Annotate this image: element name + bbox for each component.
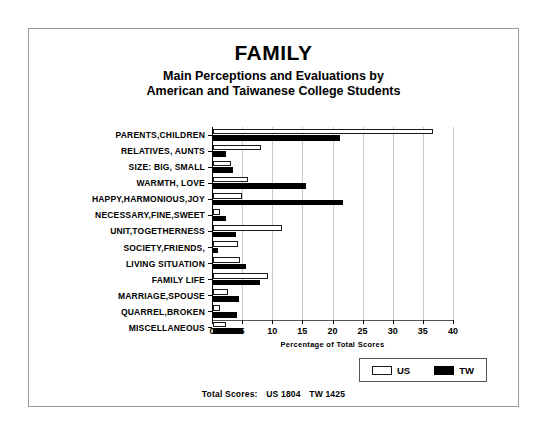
category-label: MISCELLANEOUS [129, 320, 205, 336]
total-tw: TW 1425 [309, 389, 345, 399]
y-tick [208, 247, 212, 248]
bar-row: SOCIETY,FRIENDS, [212, 240, 453, 256]
x-tick-label: 35 [418, 326, 428, 336]
bar-tw [213, 167, 233, 173]
x-tick [272, 320, 273, 324]
chart-title: FAMILY [29, 41, 518, 65]
bar-us [213, 209, 220, 215]
bar-rows: PARENTS,CHILDRENRELATIVES, AUNTSSIZE: BI… [212, 127, 453, 320]
y-tick [208, 295, 212, 296]
x-tick [302, 320, 303, 324]
bar-us [213, 273, 268, 279]
category-label: MARRIAGE,SPOUSE [118, 288, 205, 304]
bar-row: WARMTH, LOVE [212, 175, 453, 191]
x-tick [242, 320, 243, 324]
category-label: RELATIVES, AUNTS [121, 143, 205, 159]
bar-us [213, 322, 226, 328]
y-tick [208, 135, 212, 136]
bar-us [213, 177, 248, 183]
legend-item-tw: TW [434, 365, 474, 376]
bar-us [213, 241, 238, 247]
total-us: US 1804 [266, 389, 300, 399]
x-tick-label: 5 [240, 326, 245, 336]
bar-us [213, 289, 228, 295]
x-tick-label: 20 [327, 326, 337, 336]
bar-row: SIZE: BIG, SMALL [212, 159, 453, 175]
x-axis-title: Percentage of Total Scores [212, 340, 453, 349]
x-tick-label: 30 [388, 326, 398, 336]
bar-tw [213, 200, 343, 206]
bar-row: RELATIVES, AUNTS [212, 143, 453, 159]
category-label: FAMILY LIFE [152, 272, 205, 288]
bar-us [213, 257, 240, 263]
y-tick [208, 167, 212, 168]
bar-us [213, 129, 433, 135]
gridline [453, 127, 454, 320]
x-tick [423, 320, 424, 324]
bar-us [213, 161, 231, 167]
bar-tw [213, 248, 218, 254]
bar-tw [213, 135, 340, 141]
bar-row: UNIT,TOGETHERNESS [212, 223, 453, 239]
legend-swatch-tw [434, 366, 454, 375]
y-tick [208, 215, 212, 216]
legend-item-us: US [372, 365, 410, 376]
x-tick [453, 320, 454, 324]
x-tick [212, 320, 213, 324]
category-label: WARMTH, LOVE [136, 175, 205, 191]
y-tick [208, 199, 212, 200]
x-tick-label: 40 [448, 326, 458, 336]
bar-us [213, 225, 282, 231]
title-block: FAMILY Main Perceptions and Evaluations … [29, 41, 518, 99]
bar-row: NECESSARY,FINE,SWEET [212, 207, 453, 223]
x-tick [393, 320, 394, 324]
bar-tw [213, 312, 237, 318]
bar-us [213, 193, 242, 199]
category-label: NECESSARY,FINE,SWEET [95, 207, 205, 223]
chart-subtitle-line1: Main Perceptions and Evaluations by [29, 69, 518, 84]
bar-row: PARENTS,CHILDREN [212, 127, 453, 143]
bar-row: LIVING SITUATION [212, 256, 453, 272]
bar-us [213, 305, 220, 311]
chart-subtitle-line2: American and Taiwanese College Students [29, 84, 518, 99]
legend-label-us: US [397, 365, 410, 376]
bar-row: QUARREL,BROKEN [212, 304, 453, 320]
bar-tw [213, 183, 306, 189]
bar-row: FAMILY LIFE [212, 272, 453, 288]
category-label: QUARREL,BROKEN [121, 304, 205, 320]
category-label: UNIT,TOGETHERNESS [110, 223, 205, 239]
x-tick [363, 320, 364, 324]
x-tick-label: 0 [209, 326, 214, 336]
bar-us [213, 145, 261, 151]
legend-label-tw: TW [459, 365, 474, 376]
x-tick-label: 10 [267, 326, 277, 336]
totals-prefix: Total Scores: [202, 389, 258, 399]
y-tick [208, 263, 212, 264]
x-tick [333, 320, 334, 324]
legend-swatch-us [372, 366, 392, 375]
x-tick-label: 25 [358, 326, 368, 336]
totals-footnote: Total Scores: US 1804 TW 1425 [29, 389, 518, 399]
bar-tw [213, 151, 226, 157]
category-label: LIVING SITUATION [126, 256, 205, 272]
bar-row: MARRIAGE,SPOUSE [212, 288, 453, 304]
y-tick [208, 151, 212, 152]
chart-frame: FAMILY Main Perceptions and Evaluations … [28, 28, 519, 407]
bar-tw [213, 280, 260, 286]
x-tick-label: 15 [297, 326, 307, 336]
category-label: HAPPY,HARMONIOUS,JOY [92, 191, 205, 207]
y-tick [208, 311, 212, 312]
category-label: SOCIETY,FRIENDS, [123, 240, 205, 256]
category-label: PARENTS,CHILDREN [116, 127, 205, 143]
bar-tw [213, 216, 226, 222]
bar-tw [213, 296, 239, 302]
y-tick [208, 231, 212, 232]
y-tick [208, 279, 212, 280]
bar-tw [213, 232, 236, 238]
bar-tw [213, 328, 243, 334]
bar-row: HAPPY,HARMONIOUS,JOY [212, 191, 453, 207]
plot-area: PARENTS,CHILDRENRELATIVES, AUNTSSIZE: BI… [212, 127, 453, 320]
legend: US TW [359, 358, 487, 382]
bar-tw [213, 264, 246, 270]
category-label: SIZE: BIG, SMALL [129, 159, 205, 175]
